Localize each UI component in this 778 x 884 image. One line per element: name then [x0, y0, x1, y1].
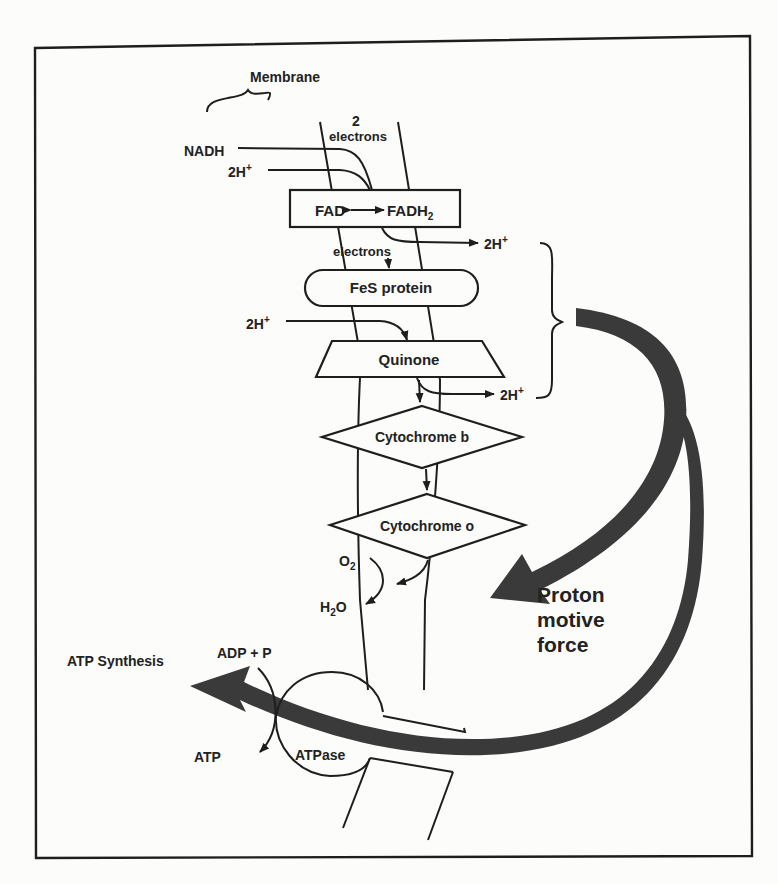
fes-protein-box: FeS protein: [305, 270, 478, 306]
membrane-lower-right: [428, 772, 453, 840]
o2-h2o-arrow: [366, 558, 383, 604]
svg-text:FeS protein: FeS protein: [350, 279, 433, 296]
pmf-label-line1: Proton: [537, 583, 605, 606]
svg-text:FAD: FAD: [315, 202, 345, 219]
h-in-1-arrow: [268, 170, 370, 190]
h-out-1-label: 2H+: [484, 234, 508, 252]
pmf-label-line2: motive: [537, 608, 605, 631]
electrons-count: 2: [352, 113, 360, 129]
quinone-down-arrow: [419, 380, 420, 402]
pmf-arrow-inner: [490, 308, 686, 604]
membrane-label: Membrane: [250, 69, 320, 85]
electron-transport-diagram: Membrane 2 electrons NADH 2H+ FAD FADH2 …: [0, 0, 778, 884]
h-out-1-arrow: [382, 228, 478, 243]
h-out-2-arrow: [417, 378, 494, 394]
cytochrome-b-box: Cytochrome b: [322, 406, 522, 468]
svg-text:Cytochrome b: Cytochrome b: [375, 429, 469, 445]
membrane-lower-top: [383, 716, 465, 732]
cyt-b-to-o-arrow: [426, 469, 427, 490]
h2o-label: H2O: [320, 599, 347, 618]
atp-label: ATP: [194, 749, 221, 765]
pmf-label-line3: force: [537, 633, 588, 656]
cyt-o-out-arrow: [397, 560, 428, 584]
membrane-brace: [207, 90, 270, 112]
quinone-box: Quinone: [316, 341, 504, 377]
proton-brace: [536, 243, 562, 398]
electrons-mid-arrow: [388, 258, 389, 268]
nadh-label: NADH: [184, 143, 224, 159]
h-in-2-label: 2H+: [246, 314, 270, 332]
membrane-lower-top-edge: [370, 758, 453, 772]
electrons-mid-label: electrons: [333, 244, 391, 259]
h-in-2-arrow: [286, 321, 407, 340]
adp-label: ADP + P: [217, 645, 272, 661]
membrane-lower-left: [343, 758, 370, 828]
atp-synthesis-label: ATP Synthesis: [67, 653, 164, 669]
h-out-2-label: 2H+: [500, 385, 524, 403]
svg-text:Cytochrome o: Cytochrome o: [380, 518, 474, 534]
electrons-top-label: electrons: [329, 129, 387, 144]
atpase-label: ATPase: [295, 747, 346, 763]
o2-label: O2: [339, 553, 356, 572]
h-in-1-label: 2H+: [228, 162, 252, 180]
fad-box: FAD FADH2: [290, 190, 460, 227]
svg-text:Quinone: Quinone: [379, 351, 440, 368]
